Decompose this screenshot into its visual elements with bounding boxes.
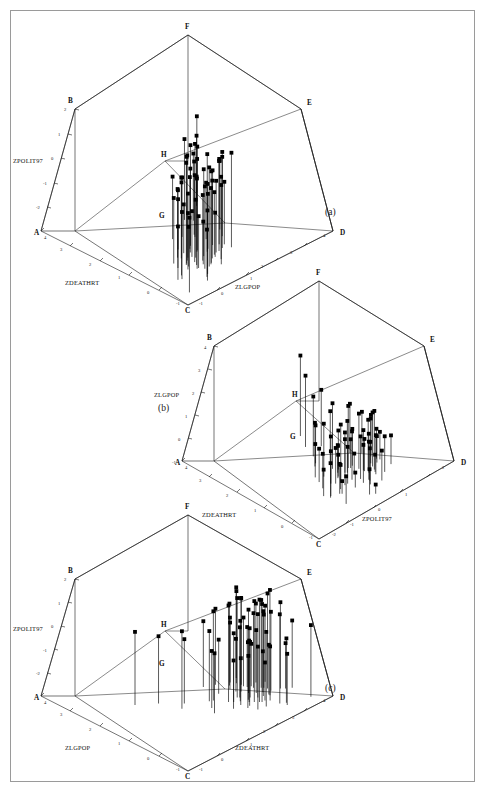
data-point: [336, 443, 340, 447]
data-point: [329, 461, 333, 465]
corner-label-a-E: E: [307, 99, 312, 107]
data-point: [220, 150, 224, 154]
data-point: [232, 659, 236, 663]
data-point: [284, 641, 288, 645]
tick-a-v-2: 0: [51, 156, 54, 161]
data-point: [230, 151, 234, 155]
data-point: [380, 449, 384, 453]
tick-a-v-4: -2: [36, 205, 41, 210]
tick-c-r-5: -1: [199, 767, 204, 772]
data-point: [220, 155, 224, 159]
data-point: [182, 637, 186, 641]
data-point: [343, 431, 347, 435]
scatter-points-c: [133, 585, 313, 713]
data-point: [331, 401, 335, 405]
data-point: [363, 437, 367, 441]
tick-c-l-1: 3: [60, 712, 63, 717]
corner-label-a-D: D: [340, 229, 345, 237]
data-point: [205, 152, 209, 156]
data-point: [346, 445, 350, 449]
data-point: [195, 114, 199, 118]
axis-title-b-right: ZPOLIT97: [362, 515, 393, 522]
corner-label-b-E: E: [430, 336, 435, 344]
data-point: [321, 452, 325, 456]
tick-b-l-0: 4: [185, 465, 188, 470]
data-point: [180, 176, 184, 180]
data-point: [182, 203, 186, 207]
corner-label-b-B: B: [207, 334, 212, 342]
data-point: [183, 137, 187, 141]
axis-title-c-vertical: ZPOLIT97: [13, 625, 44, 632]
data-point: [311, 395, 315, 399]
panel-tag-c: (c): [325, 683, 336, 694]
data-point: [262, 613, 266, 617]
data-point: [290, 619, 294, 623]
tick-c-v-3: -1: [43, 648, 48, 653]
data-point: [374, 483, 378, 487]
data-point: [252, 611, 256, 615]
data-point: [228, 602, 232, 606]
data-point: [217, 638, 221, 642]
tick-c-l-5: -1: [176, 767, 181, 772]
data-point: [389, 433, 393, 437]
tick-c-l-3: 1: [118, 741, 121, 746]
figure-frame: A B C D E F G H 2 1 0 -1 -2 ZPOLIT97: [10, 10, 475, 782]
corner-label-c-H: H: [161, 621, 167, 629]
data-point: [239, 597, 243, 601]
corner-label-c-A: A: [34, 694, 40, 702]
data-point: [207, 629, 211, 633]
data-point: [285, 637, 289, 641]
tick-c-l-4: 0: [147, 756, 150, 761]
tick-b-v-0: 4: [204, 345, 207, 350]
data-point: [336, 453, 340, 457]
data-point: [367, 432, 371, 436]
data-point: [201, 193, 205, 197]
data-point: [319, 388, 323, 392]
corner-label-c-F: F: [185, 503, 190, 511]
corner-label-b-F: F: [316, 269, 321, 277]
data-point: [309, 623, 313, 627]
data-point: [212, 190, 216, 194]
corner-label-a-H: H: [161, 151, 167, 159]
data-point: [235, 596, 239, 600]
corner-label-a-F: F: [185, 23, 190, 31]
axis-title-b-vertical: ZLGPOP: [154, 391, 180, 398]
corner-label-c-C: C: [185, 773, 190, 781]
data-point: [190, 209, 194, 213]
data-point: [214, 179, 218, 183]
data-point: [357, 412, 361, 416]
data-point: [157, 634, 161, 638]
data-point: [246, 640, 250, 644]
tick-c-v-0: 2: [64, 577, 67, 582]
tick-c-r-0: 4: [323, 698, 326, 703]
data-point: [213, 651, 217, 655]
data-point: [207, 166, 211, 170]
panel-c: A B C D E F G H 2 1 0 -1 -2 ZPOLIT97: [13, 501, 365, 781]
data-point: [338, 462, 342, 466]
axis-title-a-left: ZDEATHRT: [65, 279, 99, 286]
corner-label-b-D: D: [461, 459, 466, 467]
tick-c-l-2: 2: [89, 727, 92, 732]
data-point: [204, 181, 208, 185]
corner-label-c-G: G: [159, 660, 165, 668]
data-point: [248, 626, 252, 630]
data-point: [260, 602, 264, 606]
data-point: [189, 143, 193, 147]
data-point: [214, 607, 218, 611]
data-point: [171, 175, 175, 179]
data-point: [336, 429, 340, 433]
corner-label-c-E: E: [307, 569, 312, 577]
vertical-axis-c: 2 1 0 -1 -2 ZPOLIT97: [13, 577, 79, 676]
data-point: [222, 180, 226, 184]
tick-c-v-2: 0: [51, 624, 54, 629]
data-point: [176, 197, 180, 201]
data-point: [213, 211, 217, 215]
data-point: [375, 427, 379, 431]
data-point: [322, 422, 326, 426]
tick-a-v-0: 2: [64, 107, 67, 112]
axis-title-c-right: ZDEATHRT: [235, 744, 269, 751]
tick-b-r-4: 2: [442, 465, 445, 470]
tick-c-v-4: -2: [36, 671, 41, 676]
corner-label-b-H: H: [292, 391, 298, 399]
data-point: [242, 616, 246, 620]
